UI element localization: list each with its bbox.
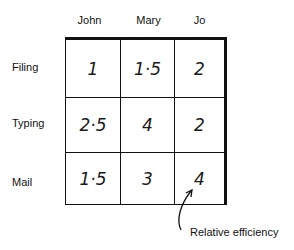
efficiency-matrix: 1 1·5 2 2·5 4 2 1·5 3 4 [65, 37, 227, 205]
cell-filing-jo: 2 [175, 40, 224, 98]
cell-typing-john: 2·5 [66, 98, 121, 153]
column-header-john: John [62, 14, 117, 26]
row-label-filing: Filing [12, 61, 38, 73]
row-label-typing: Typing [12, 117, 44, 129]
cell-mail-mary: 3 [121, 153, 175, 204]
column-header-jo: Jo [172, 14, 227, 26]
cell-filing-mary: 1·5 [121, 40, 175, 98]
cell-filing-john: 1 [66, 40, 121, 98]
column-header-mary: Mary [121, 14, 176, 26]
cell-mail-jo: 4 [175, 153, 224, 204]
cell-mail-john: 1·5 [66, 153, 121, 204]
cell-typing-mary: 4 [121, 98, 175, 153]
annotation-relative-efficiency: Relative efficiency [190, 226, 278, 238]
cell-typing-jo: 2 [175, 98, 224, 153]
row-label-mail: Mail [12, 176, 32, 188]
